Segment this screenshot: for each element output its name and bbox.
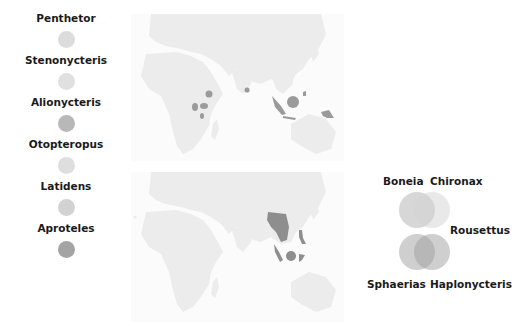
legend-dot-otopteropus [58,157,75,174]
legend-dot-latidens [58,199,75,216]
legend-label-penthetor: Penthetor [11,12,121,24]
world-map-top [131,14,344,161]
legend-label-stenonycteris: Stenonycteris [11,54,121,66]
legend-label-latidens: Latidens [11,180,121,192]
legend-dot-aproteles [58,241,75,258]
world-map-bottom [131,172,344,322]
venn-label-boneia: Boneia [383,175,424,187]
top-map [131,14,344,161]
bottom-map [131,172,344,322]
legend-label-alionycteris: Alionycteris [11,96,121,108]
legend-dot-alionycteris [58,115,75,132]
legend-label-aproteles: Aproteles [11,222,121,234]
venn-circle-haplonycteris [414,234,450,270]
legend-label-otopteropus: Otopteropus [11,138,121,150]
venn-circle-chironax [414,192,450,228]
venn-circles [390,188,460,278]
legend-dot-penthetor [58,31,75,48]
venn-label-chironax: Chironax [430,175,483,187]
venn-label-sphaerias: Sphaerias [367,278,426,290]
legend-dot-stenonycteris [58,73,75,90]
venn-label-haplonycteris: Haplonycteris [430,278,512,290]
